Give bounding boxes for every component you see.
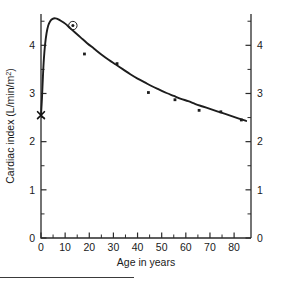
cardiac-index-chart: 001122334401020304050607080Age in yearsC… <box>0 0 293 285</box>
x-tick-label: 10 <box>59 241 71 253</box>
x-tick-label: 50 <box>156 241 168 253</box>
left-bottom-axis <box>41 14 251 238</box>
fitted-curve-line <box>41 18 246 121</box>
caption-divider-rule <box>0 277 134 278</box>
y-tick-label-right: 2 <box>257 135 263 147</box>
data-point-marker <box>174 98 177 101</box>
x-tick-label: 40 <box>132 241 144 253</box>
x-tick-label: 70 <box>204 241 216 253</box>
y-tick-label-left: 0 <box>29 232 35 244</box>
x-tick-label: 80 <box>228 241 240 253</box>
y-axis-title: Cardiac index (L/min/m2) <box>4 68 17 184</box>
data-point-marker <box>83 53 86 56</box>
x-tick-label: 60 <box>180 241 192 253</box>
x-tick-label: 30 <box>108 241 120 253</box>
y-tick-label-left: 4 <box>29 39 35 51</box>
data-point-marker <box>116 62 119 65</box>
y-tick-label-right: 4 <box>257 39 263 51</box>
y-tick-label-right: 1 <box>257 184 263 196</box>
y-tick-label-right: 3 <box>257 87 263 99</box>
data-point-marker <box>147 91 150 94</box>
y-tick-label-right: 0 <box>257 232 263 244</box>
y-tick-label-left: 3 <box>29 87 35 99</box>
highlighted-point-dot <box>71 24 74 27</box>
y-tick-label-left: 1 <box>29 184 35 196</box>
data-point-marker <box>240 119 243 122</box>
data-point-marker <box>219 110 222 113</box>
data-point-marker <box>198 109 201 112</box>
chart-figure: 001122334401020304050607080Age in yearsC… <box>0 0 293 285</box>
x-axis-title: Age in years <box>117 256 175 268</box>
y-tick-label-left: 2 <box>29 135 35 147</box>
x-tick-label: 0 <box>38 241 44 253</box>
x-tick-label: 20 <box>83 241 95 253</box>
